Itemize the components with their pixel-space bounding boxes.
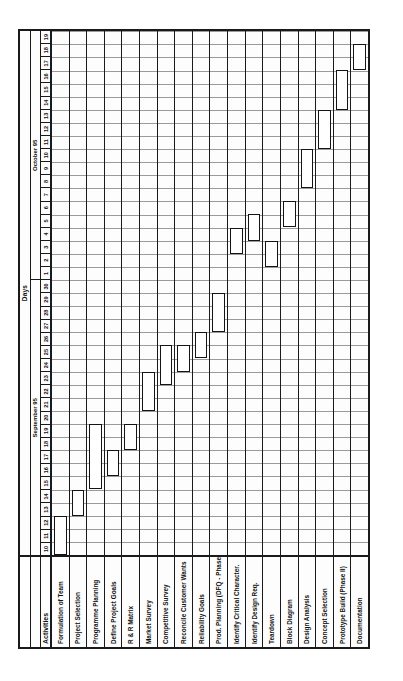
grid-cell — [263, 398, 280, 411]
grid-cell — [193, 476, 210, 489]
task-bar[interactable] — [89, 424, 102, 490]
grid-cell — [105, 424, 122, 437]
grid-cell — [263, 437, 280, 450]
grid-cell — [158, 306, 175, 319]
grid-cell — [263, 201, 280, 214]
grid-cell — [281, 149, 298, 162]
grid-cell — [228, 149, 245, 162]
grid-cell — [52, 241, 69, 254]
grid-cell — [351, 437, 368, 450]
grid-cell — [351, 215, 368, 228]
grid-cell — [263, 57, 280, 70]
grid-cell — [158, 332, 175, 345]
task-bar[interactable] — [160, 345, 173, 384]
day-tick-9: 19 — [41, 424, 50, 437]
task-bar[interactable] — [107, 450, 120, 476]
grid-cell — [281, 450, 298, 463]
grid-cell — [351, 110, 368, 123]
grid-cell — [210, 57, 227, 70]
grid-cell — [263, 529, 280, 542]
grid-cell — [210, 346, 227, 359]
task-bar[interactable] — [177, 345, 190, 371]
task-bar[interactable] — [248, 214, 261, 240]
task-bar[interactable] — [265, 241, 278, 267]
grid-cell — [193, 97, 210, 110]
grid-cell — [158, 71, 175, 84]
grid-cell — [246, 267, 263, 280]
grid-cell — [210, 463, 227, 476]
day-tick-27: 7 — [41, 188, 50, 201]
grid-cell — [52, 424, 69, 437]
task-bar[interactable] — [353, 44, 366, 70]
grid-cell — [299, 136, 316, 149]
grid-cell — [175, 123, 192, 136]
grid-cell — [299, 529, 316, 542]
grid-cell — [351, 516, 368, 529]
gantt-row: Programme Planning — [87, 31, 105, 647]
grid-cell — [228, 136, 245, 149]
task-bar[interactable] — [318, 110, 331, 149]
grid-cell — [334, 490, 351, 503]
task-bar[interactable] — [301, 149, 314, 188]
grid-cell — [210, 149, 227, 162]
grid-cell — [87, 162, 104, 175]
grid-cell — [122, 267, 139, 280]
grid-cell — [299, 71, 316, 84]
task-bar[interactable] — [212, 293, 225, 332]
grid-cell — [87, 346, 104, 359]
grid-cell — [210, 31, 227, 44]
grid-cell — [70, 201, 87, 214]
task-bar[interactable] — [195, 332, 208, 358]
task-bar[interactable] — [230, 228, 243, 254]
grid-cell — [175, 319, 192, 332]
task-bar[interactable] — [72, 490, 85, 516]
task-bar[interactable] — [124, 424, 137, 450]
grid-cell — [52, 97, 69, 110]
grid-cell — [281, 424, 298, 437]
grid-cell — [281, 31, 298, 44]
grid-cell — [105, 97, 122, 110]
task-bar[interactable] — [283, 201, 296, 227]
activity-label: Teardown — [263, 555, 280, 647]
grid-cell — [193, 280, 210, 293]
grid-cell — [316, 319, 333, 332]
grid-cell — [228, 411, 245, 424]
grid-cell — [175, 293, 192, 306]
activity-label: Project Selection — [70, 555, 87, 647]
grid-cell — [228, 476, 245, 489]
gantt-track — [228, 31, 245, 555]
grid-cell — [158, 110, 175, 123]
grid-cell — [299, 476, 316, 489]
grid-cell — [299, 385, 316, 398]
grid-cell — [87, 175, 104, 188]
grid-cell — [105, 398, 122, 411]
grid-cell — [246, 57, 263, 70]
grid-cell — [210, 372, 227, 385]
grid-cell — [299, 503, 316, 516]
grid-cell — [316, 57, 333, 70]
grid-cell — [70, 97, 87, 110]
task-bar[interactable] — [54, 516, 67, 555]
grid-cell — [246, 463, 263, 476]
grid-cell — [334, 424, 351, 437]
grid-cell — [175, 71, 192, 84]
task-bar[interactable] — [336, 70, 349, 109]
grid-cell — [52, 450, 69, 463]
gantt-row: Formulation of Team — [52, 31, 70, 647]
day-tick-25: 5 — [41, 214, 50, 227]
grid-cell — [122, 306, 139, 319]
grid-cell — [140, 529, 157, 542]
task-bar[interactable] — [142, 372, 155, 411]
grid-cell — [228, 215, 245, 228]
gantt-track — [52, 31, 69, 555]
grid-cell — [246, 450, 263, 463]
grid-cell — [246, 359, 263, 372]
grid-cell — [87, 110, 104, 123]
grid-cell — [351, 359, 368, 372]
grid-cell — [122, 57, 139, 70]
grid-cell — [193, 188, 210, 201]
grid-cell — [87, 136, 104, 149]
grid-cell — [334, 332, 351, 345]
grid-cell — [228, 398, 245, 411]
grid-cell — [140, 280, 157, 293]
